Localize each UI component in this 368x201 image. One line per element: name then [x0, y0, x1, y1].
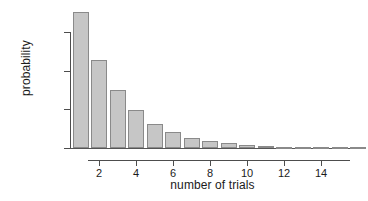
bar — [184, 138, 200, 148]
bar — [147, 124, 163, 148]
x-axis-tick — [173, 160, 174, 166]
bar — [165, 132, 181, 148]
x-axis-tick-label: 2 — [87, 167, 111, 179]
bar — [239, 145, 255, 148]
plot-area — [72, 8, 357, 148]
x-axis-tick-label: 6 — [161, 167, 185, 179]
x-axis-tick — [136, 160, 137, 166]
x-axis-tick-label: 14 — [309, 167, 333, 179]
x-axis-tick-label: 10 — [235, 167, 259, 179]
bar — [73, 12, 89, 148]
y-axis-ticks: 0.00.10.20.3 — [0, 0, 72, 201]
bar — [221, 143, 237, 148]
x-axis-tick — [321, 160, 322, 166]
x-axis-tick-label: 12 — [272, 167, 296, 179]
bar — [295, 147, 311, 149]
bar — [202, 141, 218, 148]
x-axis-tick-label: 8 — [198, 167, 222, 179]
y-axis-spine — [70, 32, 71, 149]
x-axis-tick-label: 4 — [124, 167, 148, 179]
bar — [276, 147, 292, 149]
x-axis-tick — [247, 160, 248, 166]
chart-figure: probability 0.00.10.20.3 number of trial… — [0, 0, 368, 201]
bar — [258, 146, 274, 148]
bar — [128, 110, 144, 148]
bar — [91, 60, 107, 148]
x-axis-spine — [88, 160, 350, 161]
x-axis-tick — [284, 160, 285, 166]
bar — [110, 90, 126, 148]
x-axis-tick — [210, 160, 211, 166]
bar — [332, 147, 348, 149]
bar — [313, 147, 329, 149]
x-axis-tick — [99, 160, 100, 166]
bar — [350, 147, 366, 149]
x-axis-title: number of trials — [70, 178, 355, 192]
